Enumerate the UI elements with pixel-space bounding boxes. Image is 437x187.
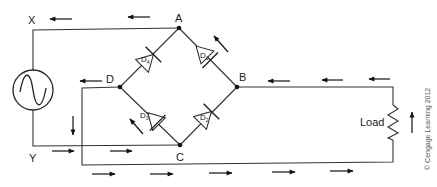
- node-b-label: B: [239, 71, 246, 83]
- node-x-label: X: [28, 14, 36, 26]
- node-y-label: Y: [29, 152, 37, 164]
- arrow-up-left-icon: [214, 36, 228, 52]
- current-arrows: [50, 17, 412, 174]
- node-a-dot: [177, 26, 182, 31]
- load-resistor-icon: [388, 105, 398, 140]
- node-c-dot: [178, 143, 183, 148]
- node-d-label: D: [106, 73, 114, 85]
- copyright-text: © Cengage Learning 2012: [424, 88, 432, 170]
- node-b-dot: [235, 85, 240, 90]
- node-a-label: A: [175, 12, 183, 24]
- load-label: Load: [360, 116, 384, 128]
- node-d-dot: [118, 85, 123, 90]
- ac-source-icon: [13, 70, 53, 110]
- wire-d-load-b: [82, 87, 393, 165]
- arrow-up-left-icon: [130, 119, 143, 134]
- bridge-rectifier-diagram: D4 D1 D3 D2 X A B D Y C Load © Cengage L…: [0, 0, 437, 187]
- wire-x-to-a: [33, 28, 179, 70]
- node-c-label: C: [176, 151, 184, 163]
